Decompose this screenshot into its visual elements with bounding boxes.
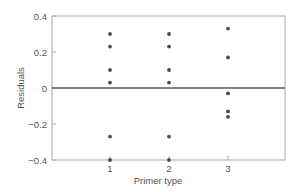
- residuals-scatter-chart: 0.40.20−0.2−0.4 123 Primer type Residual…: [0, 0, 303, 192]
- data-point: [108, 45, 112, 49]
- y-tick-label: 0: [42, 83, 47, 94]
- y-axis-label: Residuals: [15, 67, 26, 109]
- x-axis-label: Primer type: [134, 175, 183, 186]
- data-point: [108, 68, 112, 72]
- data-point: [226, 92, 230, 96]
- data-point: [226, 27, 230, 31]
- data-point: [108, 158, 112, 162]
- data-point: [167, 81, 171, 85]
- y-tick-label: 0.2: [34, 47, 47, 58]
- x-tick-label: 3: [225, 163, 230, 174]
- x-tick-label: 2: [166, 163, 171, 174]
- data-point: [226, 56, 230, 60]
- data-point: [226, 115, 230, 119]
- y-tick-label: 0.4: [34, 11, 47, 22]
- data-point: [167, 32, 171, 36]
- data-point: [226, 110, 230, 114]
- data-point: [167, 68, 171, 72]
- data-point: [108, 81, 112, 85]
- data-point: [108, 135, 112, 139]
- y-tick-label: −0.2: [28, 119, 47, 130]
- data-points: [108, 27, 230, 162]
- data-point: [167, 135, 171, 139]
- data-point: [167, 158, 171, 162]
- y-tick-label: −0.4: [28, 155, 47, 166]
- data-point: [108, 32, 112, 36]
- x-tick-label: 1: [107, 163, 112, 174]
- data-point: [167, 45, 171, 49]
